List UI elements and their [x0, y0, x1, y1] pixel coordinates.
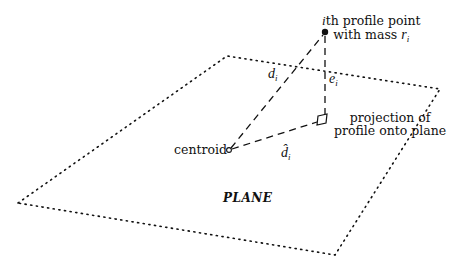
mass-var-sub: i [407, 34, 410, 44]
e-sub: i [335, 78, 338, 88]
dhat-var: d̂ [281, 145, 288, 160]
centroid-label: centroid [174, 143, 227, 156]
plane-outline [18, 56, 440, 255]
mass-variable: ri [401, 27, 409, 42]
dhat-label: d̂i [281, 146, 291, 162]
profile-point-label: ith profile point with mass ri [322, 14, 420, 44]
right-angle-marker [317, 114, 327, 125]
d-var: d [268, 66, 275, 81]
distance-line-d [231, 35, 323, 148]
mass-text: with mass [333, 27, 401, 42]
distance-line-dhat [232, 122, 317, 149]
d-label: di [268, 67, 278, 83]
d-sub: i [275, 73, 278, 83]
profile-point-label-line2: with mass ri [322, 28, 420, 44]
projection-label-line2: profile onto plane [334, 124, 446, 137]
projection-label: projection of profile onto plane [334, 111, 446, 137]
centroid-dot [227, 148, 232, 153]
plane-label: PLANE [223, 192, 272, 205]
e-label: ei [329, 72, 338, 88]
profile-point-label-line1: ith profile point [322, 14, 420, 28]
dhat-sub: i [288, 152, 291, 162]
